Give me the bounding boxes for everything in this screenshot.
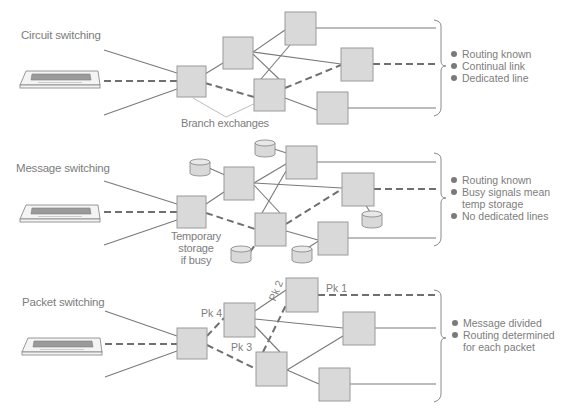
message-switching-title: Message switching bbox=[16, 162, 110, 174]
link bbox=[285, 98, 317, 110]
packet-label-pk4: Pk 4 bbox=[201, 307, 222, 319]
branch-exchanges-label: Branch exchanges bbox=[181, 117, 269, 129]
note-item: Routing known bbox=[450, 174, 550, 186]
active-link bbox=[206, 213, 255, 229]
temporary-storage-label: Temporary storage if busy bbox=[166, 230, 226, 266]
link bbox=[253, 30, 285, 52]
link bbox=[286, 231, 318, 240]
link bbox=[205, 63, 223, 74]
exchange-node bbox=[342, 173, 374, 206]
link bbox=[287, 370, 319, 384]
exchange-node bbox=[319, 368, 350, 401]
link bbox=[104, 89, 177, 115]
note-item-continuation: temp storage bbox=[450, 198, 550, 210]
exchange-node bbox=[255, 213, 286, 246]
packet-notes: Message divided Routing determined for e… bbox=[451, 317, 555, 353]
exchange-node bbox=[318, 222, 348, 255]
packet-route-pk4 bbox=[207, 318, 224, 336]
exchange-node bbox=[177, 66, 206, 97]
exchange-node bbox=[254, 79, 285, 111]
message-switching-panel bbox=[20, 140, 446, 263]
summary-bracket bbox=[434, 153, 446, 246]
link bbox=[253, 54, 279, 79]
note-item: Routing known bbox=[450, 48, 531, 60]
cylinder-storage-icon bbox=[190, 159, 210, 176]
note-item: Busy signals mean bbox=[450, 186, 550, 198]
exchange-node bbox=[286, 146, 317, 179]
active-link bbox=[286, 189, 342, 224]
note-item: No dedicated lines bbox=[450, 210, 550, 222]
exchange-node bbox=[341, 48, 373, 81]
note-continuation: for each packet bbox=[463, 341, 535, 353]
exchange-node bbox=[223, 37, 253, 69]
exchange-node bbox=[224, 303, 255, 337]
packet-switching-title: Packet switching bbox=[22, 296, 104, 308]
packet-route-pk2 bbox=[263, 303, 287, 352]
branch-exchanges-pointer bbox=[193, 98, 258, 117]
exchange-node bbox=[317, 92, 348, 124]
link bbox=[261, 45, 290, 79]
exchange-node bbox=[177, 196, 206, 228]
cylinder-storage-icon bbox=[255, 140, 275, 157]
annotation-line: Temporary bbox=[166, 230, 226, 242]
link bbox=[104, 50, 177, 73]
cylinder-storage-icon bbox=[292, 246, 312, 263]
link bbox=[255, 319, 343, 328]
exchange-node bbox=[343, 312, 375, 345]
link bbox=[287, 336, 343, 370]
circuit-switching-title: Circuit switching bbox=[21, 29, 101, 41]
exchange-node bbox=[224, 167, 254, 200]
keyboard-terminal-icon bbox=[22, 338, 102, 355]
packet-label-pk1: Pk 1 bbox=[326, 282, 347, 294]
exchange-node bbox=[177, 328, 207, 359]
link bbox=[255, 326, 280, 352]
summary-bracket bbox=[434, 20, 446, 116]
note-item: Dedicated line bbox=[450, 72, 531, 84]
active-link bbox=[205, 83, 254, 97]
keyboard-terminal-icon bbox=[20, 205, 100, 222]
annotation-line: if busy bbox=[166, 254, 226, 266]
active-link bbox=[285, 65, 341, 88]
circuit-notes: Routing known Continual link Dedicated l… bbox=[450, 48, 531, 84]
cylinder-storage-icon bbox=[362, 211, 382, 228]
note-item: Continual link bbox=[450, 60, 531, 72]
summary-bracket bbox=[434, 290, 446, 402]
keyboard-terminal-icon bbox=[20, 71, 100, 88]
link bbox=[105, 351, 177, 377]
note-continuation: temp storage bbox=[462, 198, 523, 210]
exchange-node bbox=[285, 12, 316, 45]
exchange-node bbox=[286, 278, 318, 312]
link bbox=[206, 192, 224, 204]
message-notes: Routing known Busy signals mean temp sto… bbox=[450, 174, 550, 222]
cylinder-storage-icon bbox=[231, 246, 251, 263]
packet-label-pk3: Pk 3 bbox=[231, 341, 252, 353]
note-item-continuation: for each packet bbox=[451, 341, 555, 353]
note-item: Message divided bbox=[451, 317, 555, 329]
link bbox=[104, 181, 177, 204]
exchange-node bbox=[256, 352, 287, 386]
link bbox=[253, 52, 341, 64]
annotation-line: storage bbox=[166, 242, 226, 254]
note-item: Routing determined bbox=[451, 329, 555, 341]
link bbox=[254, 183, 342, 188]
link bbox=[105, 311, 177, 336]
